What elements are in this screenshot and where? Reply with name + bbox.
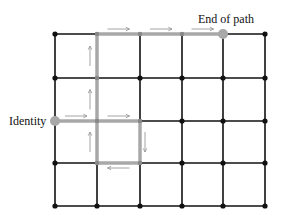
direction-arrow bbox=[88, 46, 91, 66]
grid-node bbox=[262, 118, 267, 123]
grid-node bbox=[262, 75, 267, 80]
grid-node bbox=[137, 203, 142, 208]
grid-node bbox=[262, 31, 267, 36]
grid-node bbox=[179, 75, 184, 80]
grid-node bbox=[138, 119, 142, 123]
identity-label: Identity bbox=[9, 114, 46, 128]
grid-node bbox=[52, 75, 57, 80]
grid-node bbox=[179, 118, 184, 123]
grid-node bbox=[95, 76, 99, 80]
direction-arrow bbox=[143, 132, 146, 152]
grid-node bbox=[95, 119, 99, 123]
end-of-path-label: End of path bbox=[198, 12, 254, 26]
grid-node bbox=[52, 203, 57, 208]
grid-node bbox=[52, 31, 57, 36]
identity-node bbox=[50, 116, 60, 126]
direction-arrow bbox=[88, 132, 91, 152]
direction-arrow bbox=[65, 114, 87, 117]
grid-node bbox=[95, 32, 99, 36]
direction-arrow bbox=[108, 27, 130, 30]
grid-node bbox=[94, 203, 99, 208]
grid-node bbox=[220, 160, 225, 165]
path-lines bbox=[55, 34, 223, 163]
grid-node bbox=[179, 203, 184, 208]
direction-arrow bbox=[88, 90, 91, 110]
grid-node bbox=[262, 203, 267, 208]
grid-node bbox=[179, 160, 184, 165]
grid-node bbox=[95, 161, 99, 165]
direction-arrow bbox=[108, 114, 130, 117]
grid-node bbox=[180, 32, 184, 36]
direction-arrow bbox=[108, 166, 130, 169]
grid-node bbox=[138, 161, 142, 165]
grid-node bbox=[220, 203, 225, 208]
end-of-path-node bbox=[218, 29, 228, 39]
direction-arrow bbox=[192, 27, 214, 30]
grid-node bbox=[262, 160, 267, 165]
grid-node bbox=[137, 75, 142, 80]
path-lattice-diagram: Identity End of path bbox=[0, 0, 283, 222]
grid-node bbox=[52, 160, 57, 165]
grid-node bbox=[138, 32, 142, 36]
grid-node bbox=[220, 118, 225, 123]
grid-node bbox=[220, 75, 225, 80]
direction-arrow bbox=[150, 27, 172, 30]
